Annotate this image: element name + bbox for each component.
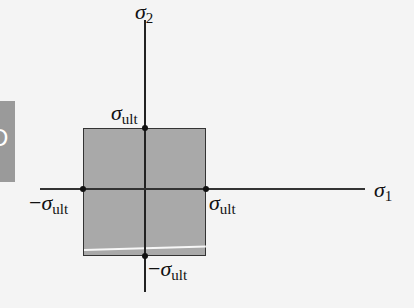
sigma2-axis-label: σ2 [135,1,153,29]
side-tab: D [0,101,15,182]
label-right-sigma-ult: σult [209,192,236,220]
label-bottom-neg-sigma-ult: −σult [148,258,187,286]
label-top-sigma-ult: σult [111,102,138,130]
side-tab-glyph: D [0,126,8,150]
sigma2-axis [144,20,146,292]
label-left-neg-sigma-ult: −σult [29,192,68,220]
point-left [80,186,86,192]
sigma1-axis-label: σ1 [374,179,392,207]
point-top [142,125,148,131]
